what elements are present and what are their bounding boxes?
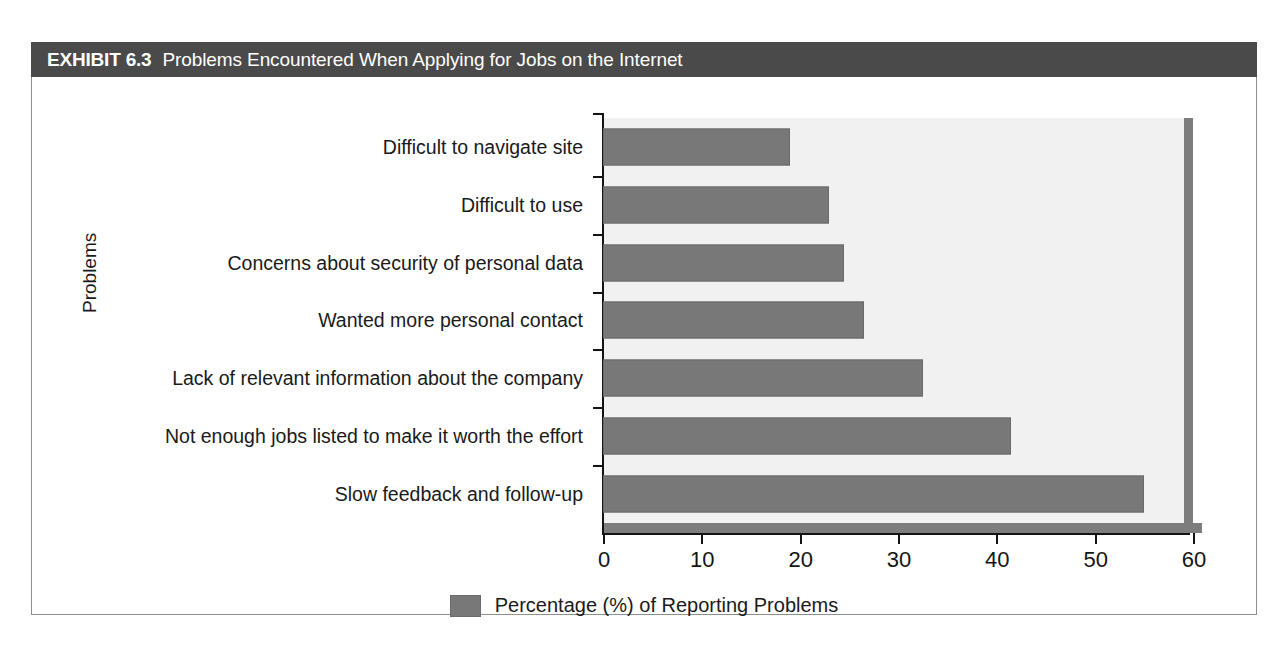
y-axis-tick [593, 234, 604, 236]
bar-row: Difficult to navigate site [31, 118, 1257, 176]
category-label: Lack of relevant information about the c… [172, 367, 583, 390]
y-axis-tick [593, 407, 604, 409]
exhibit-page: EXHIBIT 6.3 Problems Encountered When Ap… [0, 0, 1288, 667]
bar [603, 244, 844, 281]
bar-row: Wanted more personal contact [31, 292, 1257, 350]
x-axis-tick-label: 30 [887, 547, 911, 573]
category-label: Wanted more personal contact [318, 309, 583, 332]
x-axis-tick [1095, 533, 1097, 544]
x-axis-tick-label: 0 [598, 547, 610, 573]
x-axis-tick-label: 20 [788, 547, 812, 573]
bar [603, 128, 790, 165]
exhibit-header-inner: EXHIBIT 6.3 Problems Encountered When Ap… [47, 49, 683, 71]
bar [603, 476, 1144, 513]
legend-swatch-icon [450, 595, 481, 617]
bar-row: Lack of relevant information about the c… [31, 349, 1257, 407]
category-label: Concerns about security of personal data [227, 251, 583, 274]
bar [603, 360, 923, 397]
x-axis-tick [996, 533, 998, 544]
chart-legend: Percentage (%) of Reporting Problems [31, 594, 1257, 617]
y-axis-tick [593, 349, 604, 351]
x-axis-tick-label: 40 [985, 547, 1009, 573]
x-axis-tick-label: 60 [1182, 547, 1206, 573]
plot-panel-shadow [603, 523, 1202, 533]
bar [603, 186, 829, 223]
bar-row: Slow feedback and follow-up [31, 465, 1257, 523]
bar [603, 302, 864, 339]
category-label: Difficult to use [461, 193, 583, 216]
x-axis-tick-label: 50 [1083, 547, 1107, 573]
category-label: Difficult to navigate site [383, 135, 583, 158]
x-axis-tick [1193, 533, 1195, 544]
exhibit-number-label: EXHIBIT 6.3 [47, 49, 151, 71]
x-axis-tick-label: 10 [690, 547, 714, 573]
x-axis-tick [800, 533, 802, 544]
x-axis-tick [701, 533, 703, 544]
bar-row: Concerns about security of personal data [31, 234, 1257, 292]
x-axis-tick [603, 533, 605, 544]
bar-row: Not enough jobs listed to make it worth … [31, 407, 1257, 465]
bar-row: Difficult to use [31, 176, 1257, 234]
category-label: Not enough jobs listed to make it worth … [165, 425, 583, 448]
y-axis-tick [593, 292, 604, 294]
x-axis-tick [898, 533, 900, 544]
y-axis-tick [593, 113, 604, 115]
y-axis-tick [593, 465, 604, 467]
exhibit-title: Problems Encountered When Applying for J… [162, 49, 682, 71]
x-axis-line [602, 533, 1190, 535]
chart-container: Problems Difficult to navigate siteDiffi… [31, 77, 1257, 615]
exhibit-header: EXHIBIT 6.3 Problems Encountered When Ap… [31, 42, 1257, 77]
legend-label: Percentage (%) of Reporting Problems [495, 594, 839, 617]
bar [603, 418, 1011, 455]
y-axis-tick [593, 176, 604, 178]
bar-rows: Difficult to navigate siteDifficult to u… [31, 118, 1257, 523]
category-label: Slow feedback and follow-up [335, 483, 583, 506]
